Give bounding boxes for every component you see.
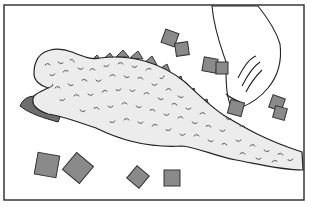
felt-square bbox=[273, 106, 288, 121]
felt-square bbox=[34, 152, 59, 177]
felt-square bbox=[227, 99, 244, 116]
craft-illustration bbox=[0, 0, 311, 207]
felt-square bbox=[164, 170, 180, 186]
felt-square bbox=[216, 62, 228, 74]
illustration bbox=[0, 0, 311, 207]
felt-square bbox=[175, 42, 190, 57]
